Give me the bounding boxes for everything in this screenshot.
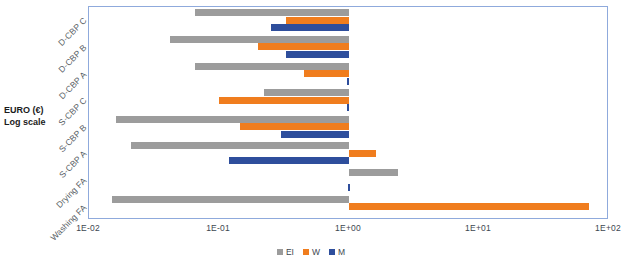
bar-w-7 bbox=[349, 203, 589, 210]
plot-area bbox=[88, 6, 608, 219]
bar-w-2 bbox=[304, 70, 349, 77]
bar-m-2 bbox=[347, 78, 349, 85]
x-tick-label: 1E+00 bbox=[335, 223, 361, 233]
bar-w-0 bbox=[286, 17, 349, 24]
log-scale-bar-chart: EURO (€) Log scale D-CBP CD-CBP BD-CBP A… bbox=[0, 0, 622, 270]
legend-label: W bbox=[312, 247, 320, 257]
chart-legend: EIWM bbox=[0, 247, 622, 257]
legend-item-w[interactable]: W bbox=[303, 247, 320, 257]
y-axis-title-line-2: Log scale bbox=[4, 116, 64, 128]
bar-ei-6 bbox=[349, 169, 398, 176]
category-label: S-CBP A bbox=[57, 149, 88, 180]
bar-ei-3 bbox=[264, 89, 349, 96]
bars-layer bbox=[89, 7, 607, 218]
x-tick-label: 1E+02 bbox=[595, 223, 621, 233]
legend-item-ei[interactable]: EI bbox=[277, 247, 294, 257]
y-axis-title: EURO (€) Log scale bbox=[4, 104, 64, 128]
bar-ei-5 bbox=[131, 142, 349, 149]
bar-w-4 bbox=[240, 123, 349, 130]
bar-w-1 bbox=[258, 43, 349, 50]
legend-swatch-icon bbox=[329, 249, 335, 255]
legend-swatch-icon bbox=[277, 249, 283, 255]
category-label: D-CBP B bbox=[56, 42, 88, 74]
bar-ei-1 bbox=[170, 36, 349, 43]
x-tick-label: 1E-02 bbox=[76, 223, 100, 233]
legend-swatch-icon bbox=[303, 249, 309, 255]
bar-m-6 bbox=[348, 184, 350, 191]
bar-m-0 bbox=[271, 24, 349, 31]
legend-item-m[interactable]: M bbox=[329, 247, 345, 257]
bar-m-4 bbox=[281, 131, 349, 138]
category-label: D-CBP A bbox=[57, 69, 89, 101]
bar-m-1 bbox=[286, 51, 349, 58]
legend-label: EI bbox=[286, 247, 294, 257]
y-axis-title-line-1: EURO (€) bbox=[4, 104, 64, 116]
bar-m-5 bbox=[229, 157, 349, 164]
x-tick-label: 1E-01 bbox=[206, 223, 230, 233]
bar-w-5 bbox=[349, 150, 376, 157]
bar-ei-2 bbox=[195, 63, 349, 70]
bar-m-3 bbox=[347, 104, 349, 111]
x-tick-label: 1E+01 bbox=[465, 223, 491, 233]
bar-w-3 bbox=[219, 97, 349, 104]
category-label: D-CBP C bbox=[56, 16, 88, 48]
bar-ei-7 bbox=[112, 196, 349, 203]
bar-ei-4 bbox=[116, 116, 349, 123]
bar-ei-0 bbox=[195, 9, 349, 16]
legend-label: M bbox=[338, 247, 345, 257]
